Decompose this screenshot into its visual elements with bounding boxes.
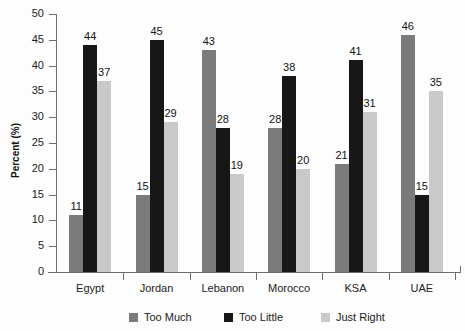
- y-axis-tick: [49, 66, 57, 67]
- y-axis-tick-label: 50: [14, 8, 44, 19]
- bar-value-label: 41: [343, 46, 369, 57]
- legend-label: Too Little: [239, 312, 283, 323]
- bar-value-label: 44: [77, 31, 103, 42]
- y-axis-tick-label: 5: [14, 240, 44, 251]
- bar: [363, 112, 377, 272]
- bar-value-label: 46: [395, 21, 421, 32]
- x-axis-tick: [123, 273, 124, 280]
- bar: [282, 76, 296, 272]
- bar-value-label: 43: [196, 36, 222, 47]
- legend-color-swatch: [321, 313, 330, 322]
- bar: [164, 122, 178, 272]
- bar: [429, 91, 443, 272]
- y-axis-tick: [49, 40, 57, 41]
- plot-area: 114437154529432819283820214131461535: [57, 14, 455, 272]
- y-axis-tick: [49, 143, 57, 144]
- bar: [401, 35, 415, 272]
- bar-value-label: 37: [91, 67, 117, 78]
- legend-item[interactable]: Just Right: [321, 309, 385, 325]
- y-axis-tick-label: 10: [14, 214, 44, 225]
- y-axis-tick-label: 15: [14, 189, 44, 200]
- bar-value-label: 38: [276, 62, 302, 73]
- x-axis-end-tick: [460, 266, 461, 273]
- bar-chart: Percent (%) 50454035302520151050 1144371…: [0, 0, 465, 331]
- bar-value-label: 20: [290, 155, 316, 166]
- bar: [150, 40, 164, 272]
- x-axis-tick: [190, 273, 191, 280]
- x-axis-category-label: UAE: [377, 283, 465, 294]
- y-axis-tick: [49, 117, 57, 118]
- bar-value-label: 45: [144, 26, 170, 37]
- bar-value-label: 31: [357, 98, 383, 109]
- x-axis-tick: [455, 273, 456, 280]
- legend-item[interactable]: Too Little: [224, 309, 283, 325]
- y-axis-tick: [49, 169, 57, 170]
- y-axis-tick: [49, 220, 57, 221]
- bar: [69, 215, 83, 272]
- y-axis-tick-label: 0: [14, 266, 44, 277]
- y-axis-tick-label: 45: [14, 34, 44, 45]
- x-axis-tick: [256, 273, 257, 280]
- y-axis-tick: [49, 246, 57, 247]
- legend-label: Just Right: [336, 312, 385, 323]
- bar-value-label: 28: [210, 114, 236, 125]
- bar: [97, 81, 111, 272]
- y-axis-tick-label: 35: [14, 85, 44, 96]
- bar: [335, 164, 349, 272]
- legend-color-swatch: [129, 313, 138, 322]
- y-axis-tick-label: 40: [14, 60, 44, 71]
- bar-value-label: 19: [224, 160, 250, 171]
- legend-label: Too Much: [144, 312, 192, 323]
- bar: [216, 128, 230, 272]
- chart-legend: Too MuchToo LittleJust Right: [0, 309, 465, 331]
- bar: [268, 128, 282, 272]
- y-axis-tick: [49, 14, 57, 15]
- x-axis-tick: [322, 273, 323, 280]
- x-axis-tick: [389, 273, 390, 280]
- y-axis-tick-label: 20: [14, 163, 44, 174]
- bar-value-label: 35: [423, 77, 449, 88]
- legend-item[interactable]: Too Much: [129, 309, 192, 325]
- bar: [349, 60, 363, 272]
- y-axis-tick: [49, 91, 57, 92]
- x-axis-line: [48, 272, 461, 273]
- y-axis-tick: [49, 272, 57, 273]
- bar: [202, 50, 216, 272]
- bar-value-label: 29: [158, 108, 184, 119]
- y-axis-tick-label: 25: [14, 137, 44, 148]
- bar: [415, 195, 429, 272]
- bar: [136, 195, 150, 272]
- legend-color-swatch: [224, 313, 233, 322]
- bar: [83, 45, 97, 272]
- y-axis-tick-label: 30: [14, 111, 44, 122]
- bar: [296, 169, 310, 272]
- bar: [230, 174, 244, 272]
- y-axis-tick: [49, 195, 57, 196]
